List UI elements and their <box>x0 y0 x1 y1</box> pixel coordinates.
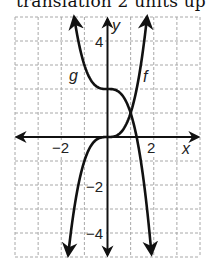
x-tick-label-2: 2 <box>147 139 155 156</box>
y-tick-label-neg2: −2 <box>86 178 103 195</box>
x-axis-label: x <box>181 140 191 157</box>
curve-label-g: g <box>69 67 78 84</box>
y-tick-label-neg4: −4 <box>86 225 103 242</box>
curve-label-f: f <box>143 68 149 85</box>
y-tick-label-4: 4 <box>95 33 103 50</box>
coordinate-graph: −2 2 x 4 y −2 −4 g f <box>0 0 212 259</box>
y-axis-label: y <box>111 17 121 34</box>
x-tick-label-neg2: −2 <box>52 139 69 156</box>
